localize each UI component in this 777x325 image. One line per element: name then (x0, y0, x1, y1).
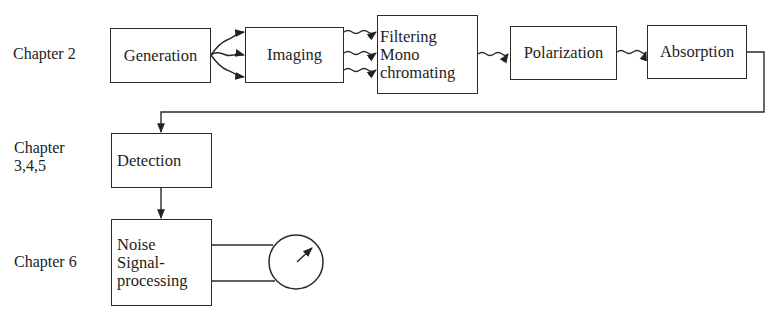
meter-dial-icon (269, 235, 323, 289)
block-label: Mono (380, 46, 419, 64)
chapter-label-text: Chapter (14, 139, 65, 157)
block-label: processing (117, 272, 188, 290)
wavy-arrow-img-filt-3 (344, 69, 376, 72)
block-absorption: Absorption (647, 25, 747, 79)
block-label: Noise (117, 236, 156, 254)
block-noise-signal-processing: Noise Signal- processing (111, 219, 212, 306)
block-generation: Generation (110, 28, 211, 83)
wavy-arrow-img-filt-2 (344, 52, 376, 55)
block-imaging: Imaging (245, 27, 344, 83)
wavy-arrow-gen-img-mid (211, 53, 244, 56)
block-label: chromating (380, 64, 455, 82)
chapter-label-text: Chapter 2 (13, 45, 76, 62)
wavy-arrow-pol-abs (617, 51, 646, 54)
chapter-label-text: 3,4,5 (14, 157, 65, 175)
block-label: Signal- (117, 254, 165, 272)
wavy-arrow-gen-img-top (211, 32, 244, 55)
chapter-label-6: Chapter 6 (14, 253, 77, 271)
block-label: Detection (117, 152, 181, 170)
chapter-label-3-4-5: Chapter 3,4,5 (14, 139, 65, 175)
wavy-arrow-img-filt-1 (344, 31, 376, 34)
chapter-label-2: Chapter 2 (13, 45, 76, 63)
block-label: Imaging (267, 46, 322, 64)
wavy-arrow-filt-pol (478, 53, 508, 56)
block-label: Generation (124, 47, 197, 65)
block-polarization: Polarization (510, 26, 617, 80)
block-label: Filtering (380, 28, 437, 46)
block-filtering-monochromating: Filtering Mono chromating (377, 15, 478, 94)
block-label: Absorption (660, 43, 734, 61)
wavy-arrow-gen-img-bot (211, 55, 244, 77)
block-detection: Detection (111, 133, 212, 188)
chapter-label-text: Chapter 6 (14, 253, 77, 270)
block-label: Polarization (524, 44, 604, 62)
